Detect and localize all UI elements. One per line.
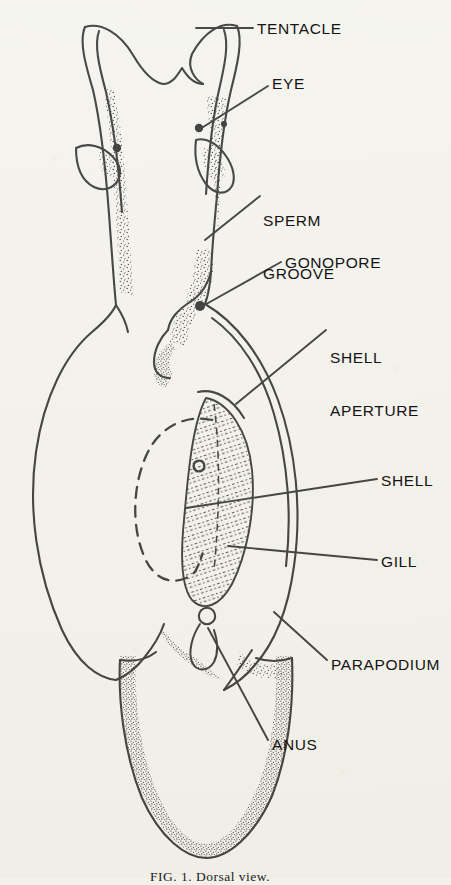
label-gonopore: GONOPORE xyxy=(285,254,381,272)
head-notch xyxy=(163,68,203,84)
label-gill: GILL xyxy=(381,553,417,571)
figure-caption: FIG. 1. Dorsal view. xyxy=(150,869,270,885)
label-sperm-groove-line1: SPERM xyxy=(263,212,335,230)
leader-anus xyxy=(208,628,268,740)
leader-gill xyxy=(228,546,377,560)
label-shell-aperture: SHELL APERTURE xyxy=(330,314,419,454)
gill-plume xyxy=(170,390,270,620)
label-anus: ANUS xyxy=(272,736,317,754)
label-shell-aperture-line2: APERTURE xyxy=(330,402,419,420)
left-eye-spot xyxy=(113,144,121,152)
right-eye-spot-secondary xyxy=(221,121,227,127)
label-parapodium: PARAPODIUM xyxy=(331,656,440,674)
label-shell: SHELL xyxy=(381,472,433,490)
leader-sperm-groove xyxy=(205,196,260,240)
label-eye: EYE xyxy=(272,75,305,93)
foot-shading xyxy=(120,656,293,858)
label-sperm-groove: SPERM GROOVE xyxy=(263,177,335,317)
left-parapodium-outline xyxy=(33,305,116,680)
leader-shell-aperture xyxy=(236,330,326,404)
label-shell-aperture-line1: SHELL xyxy=(330,349,419,367)
left-mantle-fold xyxy=(116,305,128,332)
tentacle-notch-right xyxy=(190,25,237,84)
label-tentacle: TENTACLE xyxy=(257,20,342,38)
leader-parapodium xyxy=(274,612,327,660)
body-outline xyxy=(33,25,297,858)
anus-ring xyxy=(199,608,215,624)
